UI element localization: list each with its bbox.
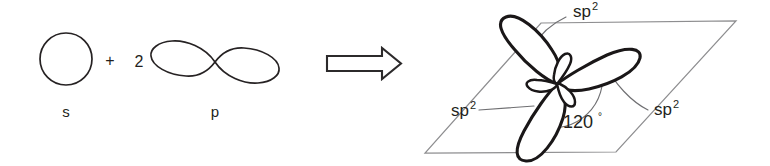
p-orbital-group: p xyxy=(151,41,279,120)
sp2-backlobe-left xyxy=(527,80,557,92)
sp2-label-right-superscript: 2 xyxy=(673,98,679,110)
sp2-label-left: sp 2 xyxy=(451,99,476,120)
p-orbital-right-lobe xyxy=(215,48,279,83)
sp2-label-right: sp 2 xyxy=(654,98,679,119)
s-orbital-circle xyxy=(40,33,92,85)
p-orbital-label: p xyxy=(211,103,219,120)
sp2-hybrid-group: sp 2 sp 2 sp 2 120 ° xyxy=(425,0,736,161)
figure-canvas: s + 2 p xyxy=(0,0,770,166)
sp2-label-right-base: sp xyxy=(654,100,672,119)
block-arrow-shape xyxy=(327,48,401,79)
sp2-lobe-bottom-left xyxy=(517,84,565,161)
bond-angle-degree-symbol: ° xyxy=(598,111,602,122)
plus-operator-label: + xyxy=(105,52,114,69)
s-orbital-label: s xyxy=(62,103,70,120)
p-orbital-left-lobe xyxy=(151,41,215,76)
sp2-label-top-base: sp xyxy=(573,2,591,21)
leader-line-left xyxy=(479,106,534,110)
sp2-label-left-superscript: 2 xyxy=(470,99,476,111)
sp2-label-left-base: sp xyxy=(451,101,469,120)
bond-angle-label: 120 ° xyxy=(563,111,602,132)
p-orbital-coefficient-label: 2 xyxy=(135,53,144,70)
sp2-label-top-superscript: 2 xyxy=(592,0,598,12)
sp2-label-top: sp 2 xyxy=(573,0,598,21)
orbital-hybridization-figure: s + 2 p xyxy=(0,0,770,166)
block-arrow-right-icon xyxy=(327,48,401,79)
s-orbital-group: s xyxy=(40,33,92,120)
bond-angle-value: 120 xyxy=(563,112,593,132)
